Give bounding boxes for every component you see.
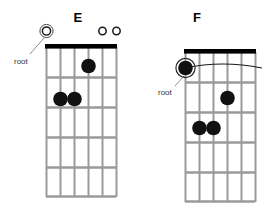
- open-marker-string1-e: [113, 27, 120, 34]
- root-dot-f: [176, 58, 195, 77]
- root-leader-line-e: [30, 38, 44, 54]
- frets-group-f: [185, 83, 255, 202]
- finger-dot-e: [53, 92, 68, 107]
- chord-chart-canvas: E root: [0, 0, 267, 209]
- open-marker-string2-e: [99, 27, 106, 34]
- finger-dot-e: [67, 92, 82, 107]
- nut-bar-f: [184, 49, 256, 54]
- finger-dot-f: [206, 121, 221, 136]
- chord-diagram-f: F root: [134, 0, 267, 209]
- nut-bar-e: [45, 44, 117, 49]
- chord-diagram-e: E root: [0, 0, 133, 209]
- finger-dot-e: [81, 59, 96, 74]
- finger-dot-f: [220, 91, 235, 106]
- open-marker-root-e: [40, 24, 53, 37]
- barre-line-f: [185, 64, 262, 68]
- chord-f-graphics: [134, 0, 267, 209]
- chord-e-graphics: [0, 0, 133, 209]
- strings-group-e: [47, 47, 117, 197]
- finger-dot-f: [192, 121, 207, 136]
